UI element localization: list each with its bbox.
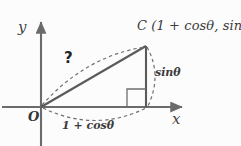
right-angle-marker	[127, 89, 146, 107]
hypotenuse-unknown-label: ?	[64, 51, 73, 66]
segment-hypotenuse	[41, 46, 146, 107]
x-axis-label: x	[172, 112, 180, 127]
origin-label: O	[28, 110, 39, 123]
dashed-arc-vertical	[147, 47, 155, 108]
base-leg-label: 1 + cosθ	[62, 120, 114, 131]
vertical-leg-label: sinθ	[155, 67, 181, 78]
point-c-label: C (1 + cosθ, sinθ)	[137, 19, 241, 32]
geometry-figure: y x O C (1 + cosθ, sinθ) ? sinθ 1 + cosθ	[0, 0, 241, 146]
y-axis-label: y	[18, 20, 26, 35]
